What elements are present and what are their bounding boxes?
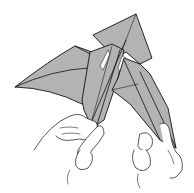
left-hand (34, 114, 104, 184)
origami-diagram (0, 0, 194, 193)
origami-illustration (0, 0, 194, 193)
